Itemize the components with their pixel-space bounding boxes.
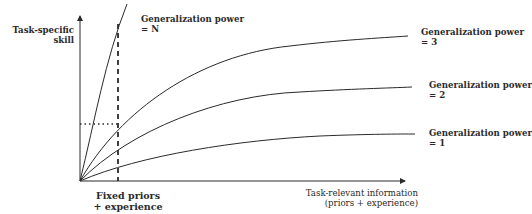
x-axis-label-line-1: Task-relevant information xyxy=(300,188,418,198)
y-axis-label-line-1: Task-specific xyxy=(2,25,74,35)
gp-3-label-line-2: = 3 xyxy=(421,37,524,47)
curve-gp-2 xyxy=(80,87,412,181)
x-axis-label-line-2: (priors + experience) xyxy=(300,198,418,208)
fixed-priors-label-line-2: + experience xyxy=(88,201,168,212)
x-axis-label: Task-relevant information (priors + expe… xyxy=(300,188,418,208)
gp-1-label-line-1: Generalization power xyxy=(429,128,532,138)
gp-1-label: Generalization power = 1 xyxy=(429,128,532,148)
curve-gp-1 xyxy=(80,134,415,181)
curve-gp-n xyxy=(80,4,127,181)
fixed-priors-label-line-1: Fixed priors xyxy=(88,190,168,201)
gp-2-label-line-1: Generalization power xyxy=(429,80,532,90)
gp-3-label: Generalization power = 3 xyxy=(421,27,524,47)
gp-2-label: Generalization power = 2 xyxy=(429,80,532,100)
gp-n-label-line-1: Generalization power xyxy=(141,14,244,24)
gp-n-label-line-2: = N xyxy=(141,24,244,34)
curve-gp-3 xyxy=(80,36,408,181)
gp-3-label-line-1: Generalization power xyxy=(421,27,524,37)
y-axis-label-line-2: skill xyxy=(2,35,74,45)
y-axis-label: Task-specific skill xyxy=(2,25,74,45)
gp-1-label-line-2: = 1 xyxy=(429,138,532,148)
gp-n-label: Generalization power = N xyxy=(141,14,244,34)
gp-2-label-line-2: = 2 xyxy=(429,90,532,100)
fixed-priors-label: Fixed priors + experience xyxy=(88,190,168,212)
